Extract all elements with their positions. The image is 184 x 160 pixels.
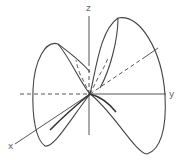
curve-left-strand	[50, 94, 90, 130]
x-axis-label: x	[8, 141, 14, 151]
x-axis-negative-hidden	[90, 57, 145, 94]
curve-left-lobe	[33, 43, 90, 146]
x-axis-positive	[15, 94, 90, 144]
y-axis-label: y	[169, 89, 175, 99]
diagram-canvas: z y x	[0, 0, 184, 160]
z-axis-label: z	[86, 3, 91, 13]
